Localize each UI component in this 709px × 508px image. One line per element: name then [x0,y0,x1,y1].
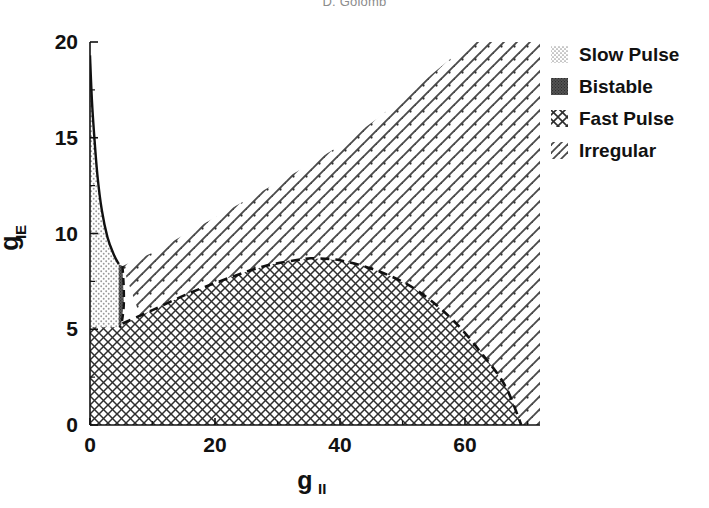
x-tick-label: 0 [84,433,96,456]
legend-item[interactable]: Irregular [551,140,657,161]
figure-container: D. Golomb [0,0,709,508]
y-tick-label: 10 [55,222,78,245]
legend-swatch-diagonal-hatch-icon [551,142,568,159]
cropped-header-text: D. Golomb [0,0,709,6]
y-tick-label: 5 [66,317,78,340]
x-tick-label: 20 [203,433,226,456]
legend-swatch-light-dots-icon [551,46,568,63]
legend-swatch-cross-hatch-icon [551,110,568,127]
x-tick-label: 40 [328,433,351,456]
legend-swatch-dense-solid-icon [551,78,568,95]
x-axis-title-main: g [297,466,312,494]
y-tick-label: 20 [55,30,78,53]
legend-item[interactable]: Bistable [551,76,653,97]
phase-diagram-chart: 0204060 05101520 g II g IE Slow PulseBis… [0,0,709,508]
legend-label: Bistable [579,76,653,97]
x-axis-title-subscript: II [318,480,326,497]
y-axis-title-subscript: IE [12,225,29,239]
legend-label: Irregular [579,140,657,161]
x-tick-label: 60 [453,433,476,456]
legend-label: Fast Pulse [579,108,674,129]
y-tick-label: 0 [66,413,78,436]
legend-label: Slow Pulse [579,44,679,65]
y-tick-label: 15 [55,126,79,149]
